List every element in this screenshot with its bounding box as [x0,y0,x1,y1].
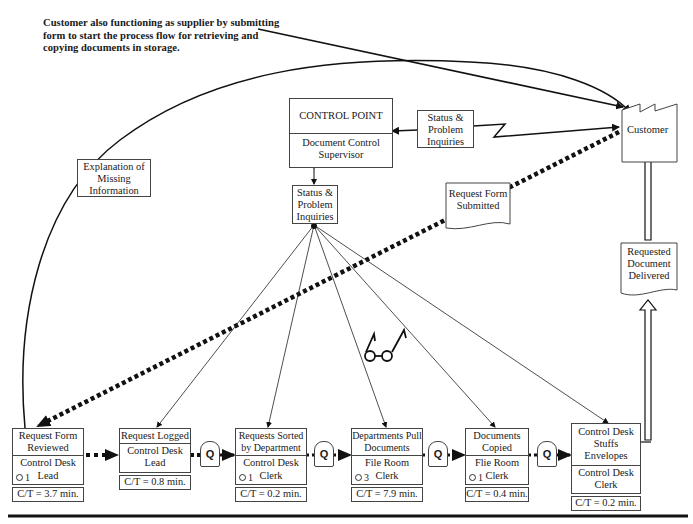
cycle-time: C/T = 7.9 min. [351,487,423,502]
operator-icon [469,474,476,481]
process-requests-sorted: Requests Sorted by Department Control De… [235,428,307,502]
operator-count: 1 [469,473,483,483]
eyeglasses-icon [365,330,406,361]
operator-count: 1 [239,473,253,483]
status-inquiries-right: Status & Problem Inquiries [417,110,474,148]
operator-count: 1 [16,473,30,483]
note-pointer-line [258,29,623,107]
cycle-time: C/T = 0.2 min. [235,487,307,502]
requested-document-delivered-label: Requested Document Delivered [621,246,677,282]
queue-1: Q [200,441,220,467]
queue-2: Q [314,441,334,467]
queue-3: Q [428,441,448,467]
request-form-submitted-label: Request Form Submitted [446,188,510,212]
customer-supplier-note: Customer also functioning as supplier by… [43,17,283,55]
status-inquiries-center: Status & Problem Inquiries [292,185,338,224]
control-point-box: CONTROL POINT Document Control Superviso… [289,98,393,168]
process-role: Control Desk Lead [120,445,190,469]
explanation-missing-info-box: Explanation of Missing Information [77,159,151,197]
process-request-logged: Request Logged Control Desk Lead C/T = 0… [119,428,191,490]
queue-4: Q [537,441,557,467]
customer-label: Customer [627,124,668,135]
electronic-info-zigzag [473,124,619,137]
control-point-role: Document Control Supervisor [290,134,392,164]
status-to-control-line [392,130,418,131]
process-role: Control Desk Clerk [572,467,640,491]
info-lines [157,225,608,427]
cycle-time: C/T = 0.8 min. [119,475,191,490]
process-documents-copied: Documents Copied Flie Room Clerk 1 C/T =… [465,428,529,502]
operator-icon [239,474,246,481]
control-point-title: CONTROL POINT [290,99,392,134]
operator-icon [16,474,23,481]
operator-icon [355,474,362,481]
process-stuffs-envelopes: Control Desk Stuffs Envelopes Control De… [571,423,641,511]
cycle-time: C/T = 3.7 min. [12,487,84,502]
process-departments-pull-documents: Departments Pull Documents File Room Cle… [351,428,423,502]
operator-count: 3 [355,473,369,483]
cycle-time: C/T = 0.2 min. [571,496,641,511]
process-request-form-reviewed: Request Form Reviewed Control Desk Lead … [12,428,84,502]
cycle-time: C/T = 0.4 min. [465,487,529,502]
